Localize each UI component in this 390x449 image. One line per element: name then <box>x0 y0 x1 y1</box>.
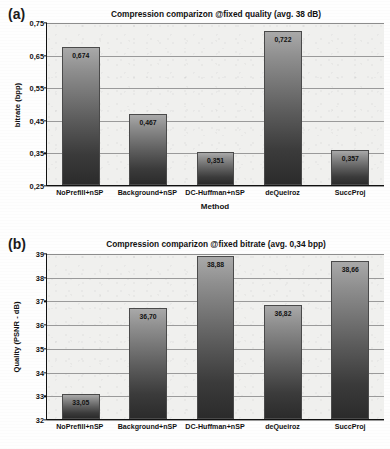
bar: 38,88 <box>197 256 235 419</box>
y-tick-label: 34 <box>36 368 44 377</box>
gridline <box>47 186 384 187</box>
bar: 38,66 <box>331 261 369 419</box>
bar-slot: 38,88 <box>182 254 249 419</box>
bar-slot: 0,467 <box>114 23 181 185</box>
y-tick-label: 0,45 <box>30 116 44 125</box>
figure-page: (a) Compression comparizon @fixed qualit… <box>0 0 390 449</box>
bar: 0,722 <box>264 31 302 185</box>
bar-slot: 0,722 <box>249 23 316 185</box>
y-tick-label: 32 <box>36 416 44 425</box>
bar-value-label: 0,351 <box>207 157 224 164</box>
bar-value-label: 36,70 <box>140 313 157 320</box>
y-tick-label: 33 <box>36 392 44 401</box>
panel-a-letter: (a) <box>8 6 25 22</box>
chart-panel-b: (b) Compression comparizon @fixed bitrat… <box>0 236 390 449</box>
y-tick-mark <box>44 185 47 186</box>
y-tick-label: 35 <box>36 344 44 353</box>
bar-value-label: 38,88 <box>207 261 224 268</box>
gridline <box>47 420 384 421</box>
panel-a-x-tick-labels: NoPrefill+nSPBackground+nSPDC-Huffman+nS… <box>46 189 384 197</box>
bar-slot: 0,357 <box>317 23 384 185</box>
bar-value-label: 0,467 <box>140 119 157 126</box>
x-tick-label: NoPrefill+nSP <box>46 423 114 431</box>
bar-value-label: 36,82 <box>274 310 291 317</box>
x-tick-label: deQueiroz <box>249 189 317 197</box>
x-tick-label: DC-Huffman+nSP <box>181 189 249 197</box>
y-tick-label: 0,35 <box>30 149 44 158</box>
bar-value-label: 0,674 <box>72 52 89 59</box>
panel-a-plot-area: 0,750,650,550,450,350,25 0,6740,4670,351… <box>46 23 384 186</box>
y-tick-label: 0,25 <box>30 182 44 191</box>
bar-slot: 33,05 <box>47 254 114 419</box>
y-tick-label: 36 <box>36 321 44 330</box>
bar-value-label: 38,66 <box>342 266 359 273</box>
bar-slot: 36,70 <box>114 254 181 419</box>
x-tick-label: deQueiroz <box>249 423 317 431</box>
panel-b-bars: 33,0536,7038,8836,8238,66 <box>47 254 384 419</box>
y-tick-label: 38 <box>36 273 44 282</box>
bar-slot: 0,674 <box>47 23 114 185</box>
bar: 0,467 <box>129 114 167 185</box>
panel-b-title: Compression comparizon @fixed bitrate (a… <box>46 239 386 249</box>
y-tick-label: 37 <box>36 297 44 306</box>
bar-value-label: 0,357 <box>342 155 359 162</box>
bar: 0,674 <box>62 47 100 185</box>
bar-value-label: 33,05 <box>72 399 89 406</box>
bar-value-label: 0,722 <box>274 36 291 43</box>
bar-slot: 38,66 <box>317 254 384 419</box>
bar-slot: 0,351 <box>182 23 249 185</box>
panel-b-x-tick-labels: NoPrefill+nSPBackground+nSPDC-Huffman+nS… <box>46 423 384 431</box>
bar: 0,357 <box>331 150 369 185</box>
y-tick-label: 39 <box>36 250 44 259</box>
x-tick-label: Background+nSP <box>114 189 182 197</box>
panel-b-y-axis-label: Quality (PSNR - dB) <box>12 302 21 373</box>
panel-b-letter: (b) <box>8 236 26 252</box>
bar-slot: 36,82 <box>249 254 316 419</box>
y-tick-mark <box>44 419 47 420</box>
y-tick-label: 0,55 <box>30 84 44 93</box>
x-tick-label: DC-Huffman+nSP <box>181 423 249 431</box>
bar: 0,351 <box>197 152 235 185</box>
panel-a-x-axis-label: Method <box>46 202 384 211</box>
chart-panel-a: (a) Compression comparizon @fixed qualit… <box>0 6 390 222</box>
bar: 33,05 <box>62 394 100 419</box>
panel-a-y-axis-label: bitrate (bpp) <box>13 82 22 126</box>
bar: 36,82 <box>264 305 302 419</box>
bar: 36,70 <box>129 308 167 419</box>
panel-a-title: Compression comparizon @fixed quality (a… <box>46 9 386 19</box>
x-tick-label: SuccProj <box>316 189 384 197</box>
panel-b-plot-area: 3938373635343332 33,0536,7038,8836,8238,… <box>46 254 384 420</box>
x-tick-label: Background+nSP <box>114 423 182 431</box>
y-tick-label: 0,65 <box>30 51 44 60</box>
y-tick-label: 0,75 <box>30 19 44 28</box>
x-tick-label: NoPrefill+nSP <box>46 189 114 197</box>
panel-a-bars: 0,6740,4670,3510,7220,357 <box>47 23 384 185</box>
x-tick-label: SuccProj <box>316 423 384 431</box>
